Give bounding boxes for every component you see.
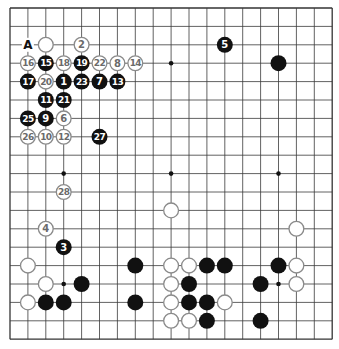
stone-icon [271, 258, 287, 274]
stone-icon [127, 294, 143, 310]
white-stone-10: 10 [38, 129, 53, 144]
move-number: 16 [22, 58, 34, 68]
white-stone [289, 221, 304, 236]
move-number: 21 [58, 95, 70, 105]
white-stone-26: 26 [21, 129, 36, 144]
stone-icon [199, 294, 215, 310]
star-point [169, 61, 174, 66]
move-number: 14 [130, 58, 142, 68]
black-stone-11: 11 [38, 92, 54, 108]
star-point [61, 171, 66, 176]
stone-icon [21, 295, 36, 310]
stone-icon [56, 294, 72, 310]
move-number: 22 [94, 58, 106, 68]
move-number: 12 [58, 132, 70, 142]
move-number: 27 [94, 132, 106, 142]
stone-icon [164, 258, 179, 273]
white-stone [38, 37, 53, 52]
black-stone [253, 276, 269, 292]
point-label-a: A [23, 38, 33, 52]
move-number: 1 [60, 76, 67, 87]
white-stone-20: 20 [38, 74, 53, 89]
stone-icon [38, 277, 53, 292]
stone-icon [21, 258, 36, 273]
black-stone [74, 276, 90, 292]
move-number: 9 [42, 113, 49, 124]
black-stone-15: 15 [38, 55, 54, 71]
star-point [61, 282, 66, 287]
go-board: A 24681012141618202226281357911131517192… [0, 0, 339, 349]
stone-icon [127, 258, 143, 274]
stone-icon [181, 294, 197, 310]
white-stone [289, 258, 304, 273]
move-number: 11 [40, 95, 52, 105]
stone-icon [199, 313, 215, 329]
black-stone-7: 7 [92, 74, 108, 90]
white-stone-2: 2 [74, 37, 89, 52]
stone-icon [38, 294, 54, 310]
white-stone-16: 16 [21, 56, 36, 71]
move-number: 3 [60, 242, 67, 253]
black-stone-5: 5 [217, 37, 233, 53]
stone-icon [181, 276, 197, 292]
white-stone-6: 6 [56, 111, 71, 126]
stone-icon [164, 313, 179, 328]
black-stone-19: 19 [74, 55, 90, 71]
white-stone-4: 4 [38, 221, 53, 236]
stone-icon [38, 37, 53, 52]
move-number: 5 [221, 39, 228, 50]
black-stone [199, 313, 215, 329]
board-labels: A [22, 38, 34, 53]
black-stone-21: 21 [56, 92, 72, 108]
white-stone-12: 12 [56, 129, 71, 144]
white-stone [38, 277, 53, 292]
stone-icon [217, 295, 232, 310]
move-number: 26 [22, 132, 34, 142]
white-stone [217, 295, 232, 310]
stone-icon [164, 277, 179, 292]
white-stone [182, 313, 197, 328]
black-stone [199, 258, 215, 274]
black-stone-3: 3 [56, 239, 72, 255]
white-stone [289, 277, 304, 292]
move-number: 4 [42, 223, 49, 234]
stone-icon [182, 313, 197, 328]
white-stone [182, 258, 197, 273]
stone-icon [253, 313, 269, 329]
stone-icon [253, 276, 269, 292]
black-stone [181, 276, 197, 292]
white-stone-22: 22 [92, 56, 107, 71]
white-stone [164, 313, 179, 328]
move-number: 8 [114, 58, 121, 69]
stone-icon [164, 203, 179, 218]
black-stone [56, 294, 72, 310]
black-stone [199, 294, 215, 310]
star-point [276, 282, 281, 287]
stone-icon [74, 276, 90, 292]
white-stone [164, 277, 179, 292]
move-number: 18 [58, 58, 70, 68]
black-stone-17: 17 [20, 74, 36, 90]
move-number: 10 [40, 132, 52, 142]
black-stone [181, 294, 197, 310]
white-stone [21, 295, 36, 310]
move-number: 25 [22, 114, 34, 124]
stone-icon [271, 55, 287, 71]
black-stone [271, 258, 287, 274]
black-stone [127, 258, 143, 274]
stone-icon [289, 258, 304, 273]
white-stone-28: 28 [56, 185, 71, 200]
stone-icon [182, 258, 197, 273]
move-number: 19 [76, 58, 88, 68]
black-stone [127, 294, 143, 310]
move-number: 2 [78, 39, 85, 50]
stone-icon [217, 258, 233, 274]
move-number: 28 [58, 187, 70, 197]
move-number: 6 [60, 113, 67, 124]
move-number: 15 [40, 58, 52, 68]
stone-icon [199, 258, 215, 274]
black-stone-27: 27 [92, 129, 108, 145]
move-number: 20 [40, 77, 52, 87]
black-stone-9: 9 [38, 110, 54, 126]
stone-icon [164, 295, 179, 310]
